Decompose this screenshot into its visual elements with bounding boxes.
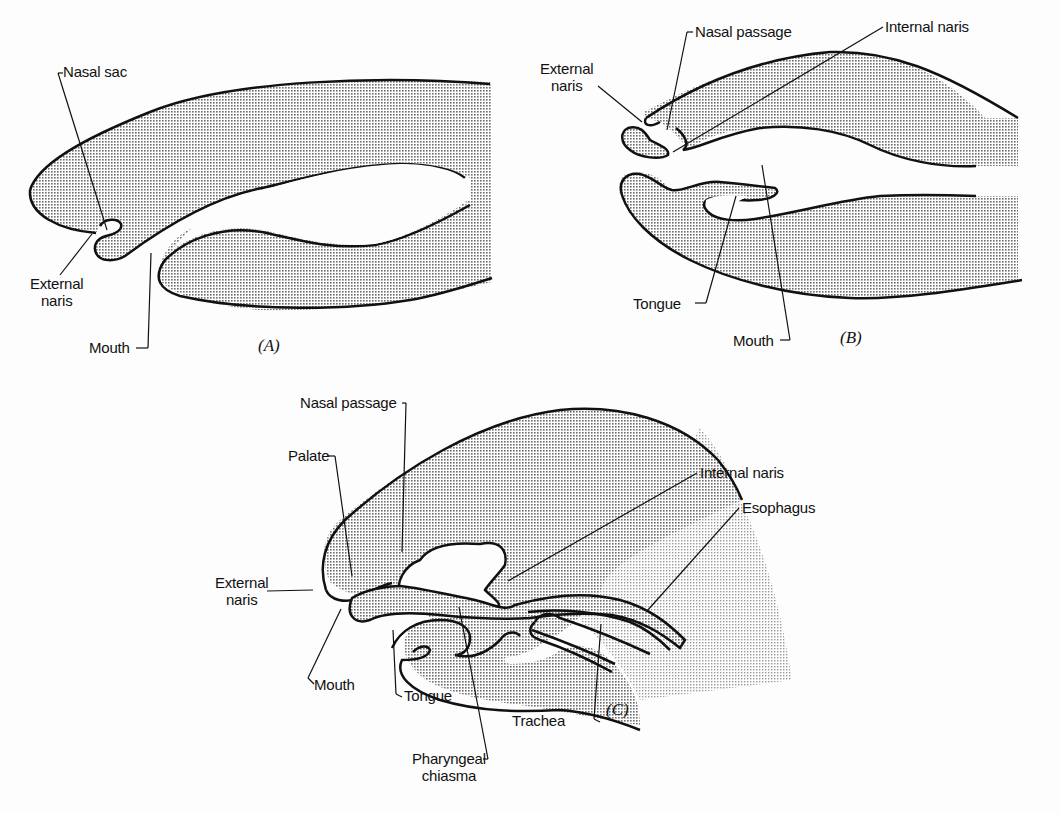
- panel-c-drawing: [267, 403, 792, 759]
- panel-b-drawing: [598, 27, 1022, 340]
- panel-b-label: (B): [840, 328, 862, 348]
- label-b-internal-naris: Internal naris: [885, 18, 969, 35]
- label-c-mouth: Mouth: [314, 676, 355, 693]
- label-b-tongue: Tongue: [633, 295, 681, 312]
- label-b-external-naris: External naris: [540, 60, 593, 94]
- panel-a-drawing: [30, 73, 492, 348]
- label-c-pharyngeal-chiasma: Pharyngeal chiasma: [412, 750, 486, 784]
- label-a-nasal-sac: Nasal sac: [63, 63, 127, 80]
- label-b-mouth: Mouth: [733, 332, 774, 349]
- label-c-nasal-passage: Nasal passage: [300, 394, 397, 411]
- label-c-internal-naris: Internal naris: [700, 464, 784, 481]
- diagram-drawing: [0, 0, 1061, 814]
- panel-c-label: (C): [606, 700, 629, 720]
- label-c-esophagus: Esophagus: [742, 499, 815, 516]
- label-a-external-naris: External naris: [30, 275, 83, 309]
- panel-a-label: (A): [258, 336, 280, 356]
- label-c-external-naris: External naris: [215, 574, 268, 608]
- label-a-mouth: Mouth: [89, 339, 130, 356]
- figure-canvas: Nasal sac External naris Mouth (A) Nasal…: [0, 0, 1061, 814]
- label-c-tongue: Tongue: [404, 687, 452, 704]
- label-b-nasal-passage: Nasal passage: [695, 23, 792, 40]
- label-c-trachea: Trachea: [512, 712, 565, 729]
- label-c-palate: Palate: [288, 447, 329, 464]
